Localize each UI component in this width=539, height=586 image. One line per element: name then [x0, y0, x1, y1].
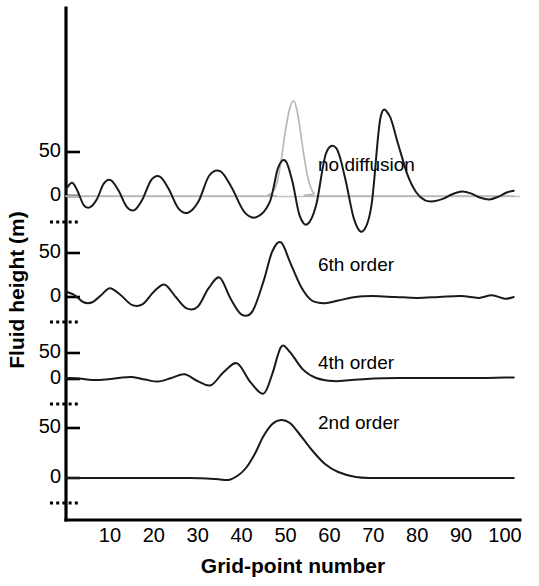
data-curves — [66, 101, 514, 480]
y-tick-label-p3-0: 0 — [50, 366, 61, 388]
y-tick-label-p2-0: 0 — [50, 284, 61, 306]
x-tick-label-10: 10 — [99, 524, 121, 546]
fluid-height-chart: 50 0 50 0 50 0 50 0 10203040506070809010… — [0, 0, 539, 586]
x-tick-label-40: 40 — [230, 524, 252, 546]
series-label-4th-order: 4th order — [318, 352, 395, 373]
series-label-2nd-order: 2nd order — [318, 412, 400, 433]
series-label-6th-order: 6th order — [318, 254, 395, 275]
y-tick-label-p3-50: 50 — [39, 340, 61, 362]
series-label-no-diffusion: no diffusion — [318, 154, 415, 175]
figure-container: 50 0 50 0 50 0 50 0 10203040506070809010… — [0, 0, 539, 586]
y-axis-title: Fluid height (m) — [5, 211, 28, 368]
curve-6th-order — [66, 242, 514, 316]
x-axis-tick-labels: 102030405060708090100 — [99, 524, 522, 546]
axis-frame — [66, 8, 520, 520]
x-tick-label-20: 20 — [143, 524, 165, 546]
x-tick-label-100: 100 — [488, 524, 521, 546]
y-tick-label-p4-50: 50 — [39, 415, 61, 437]
x-tick-label-70: 70 — [362, 524, 384, 546]
curve-initial-condition-reference — [66, 101, 514, 196]
x-tick-label-80: 80 — [406, 524, 428, 546]
curve-2nd-order — [66, 420, 514, 480]
x-tick-label-50: 50 — [274, 524, 296, 546]
x-tick-label-60: 60 — [318, 524, 340, 546]
curve-no-diffusion — [66, 110, 514, 232]
y-tick-label-p1-0: 0 — [50, 183, 61, 205]
y-tick-label-p1-50: 50 — [39, 139, 61, 161]
x-tick-label-30: 30 — [187, 524, 209, 546]
y-tick-label-p4-0: 0 — [50, 465, 61, 487]
x-tick-label-90: 90 — [450, 524, 472, 546]
x-axis-title: Grid-point number — [201, 554, 385, 577]
curve-4th-order — [66, 346, 514, 394]
y-axis-tick-labels: 50 0 50 0 50 0 50 0 — [39, 139, 61, 487]
y-tick-label-p2-50: 50 — [39, 240, 61, 262]
